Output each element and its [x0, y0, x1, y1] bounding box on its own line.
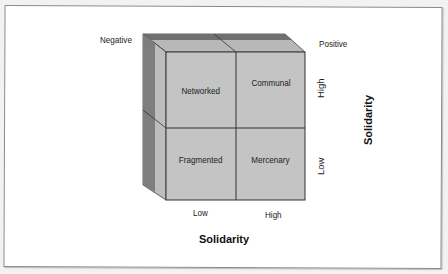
quadrant-communal: Communal — [236, 52, 305, 112]
x-tick-low: Low — [193, 207, 208, 218]
quadrant-mercenary: Mercenary — [236, 128, 305, 190]
x-tick-high: High — [265, 209, 282, 220]
corner-label-negative: Negative — [100, 34, 132, 45]
y-tick-high: High — [315, 78, 326, 98]
y-tick-low: Low — [315, 158, 326, 175]
quadrant-fragmented: Fragmented — [166, 128, 236, 190]
quadrant-networked: Networked — [166, 52, 236, 128]
y-axis-title: Solidarity — [362, 95, 374, 145]
corner-label-positive: Positive — [319, 38, 347, 49]
x-axis-title: Solidarity — [199, 233, 249, 245]
